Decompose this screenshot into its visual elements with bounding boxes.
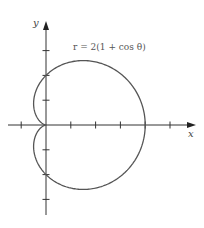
equation-label: r = 2(1 + cos θ) bbox=[73, 42, 146, 52]
y-axis-label: y bbox=[32, 17, 39, 28]
cardioid-plot: r = 2(1 + cos θ) x y bbox=[0, 0, 204, 228]
y-axis-arrow-icon bbox=[43, 21, 49, 30]
x-axis-label: x bbox=[188, 128, 194, 139]
